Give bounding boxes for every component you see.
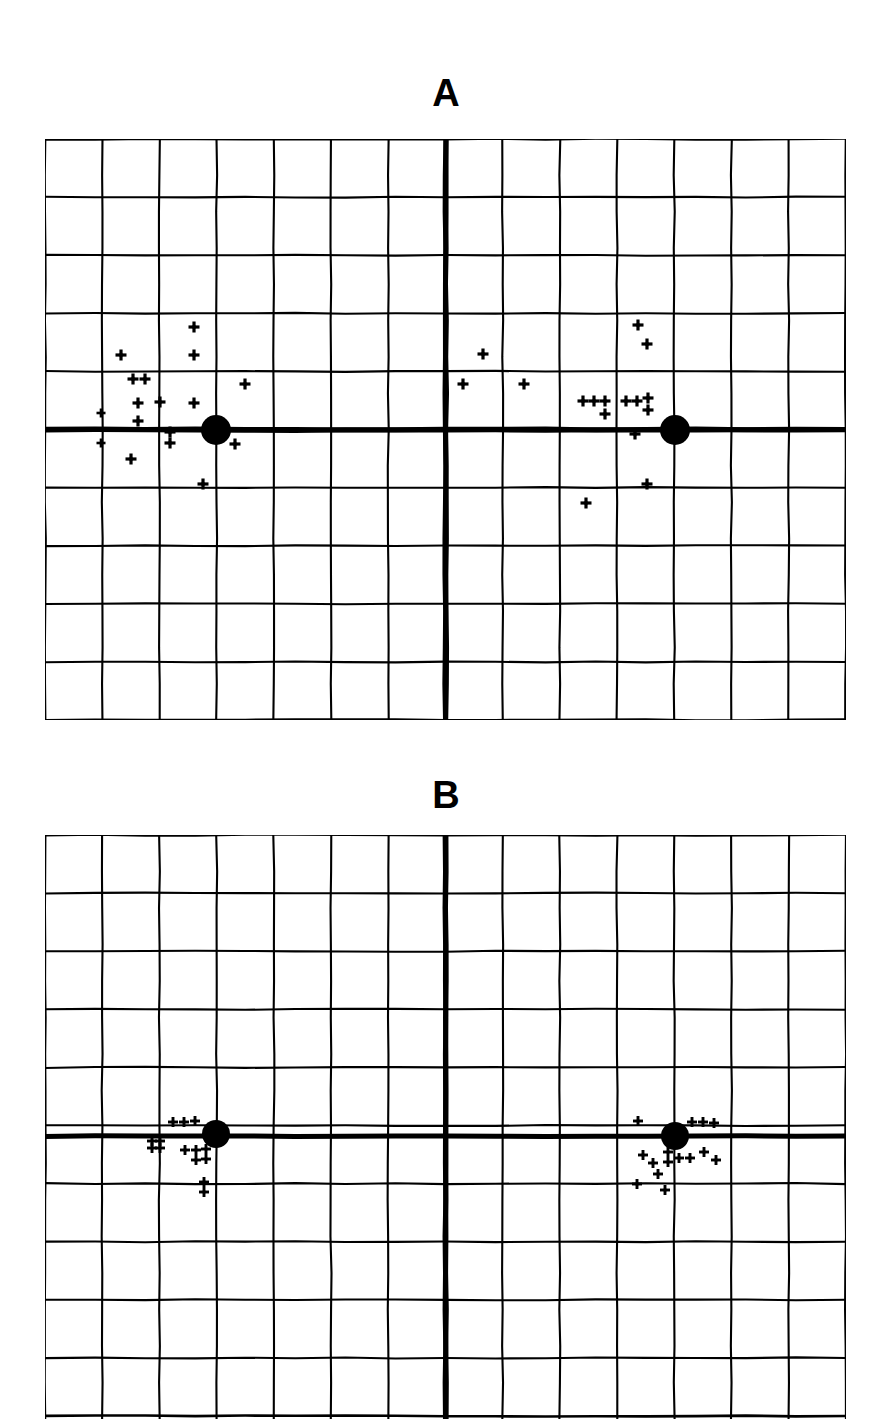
- panel-a: A: [0, 0, 892, 740]
- data-point-marker: [191, 1145, 201, 1155]
- data-point-marker: [199, 1187, 209, 1197]
- vertical-axis-line: [446, 139, 447, 720]
- data-point-marker: [600, 409, 611, 420]
- grid-line-vertical: [845, 835, 846, 1419]
- grid-line-vertical: [617, 835, 618, 1419]
- data-point-marker: [632, 1179, 642, 1189]
- data-point-marker: [201, 1154, 211, 1164]
- data-point-marker: [133, 416, 144, 427]
- grid-line-vertical: [273, 835, 274, 1419]
- data-point-marker: [648, 1158, 658, 1168]
- grid-line-vertical: [159, 835, 160, 1419]
- data-point-marker: [126, 454, 137, 465]
- grid-line-vertical: [45, 835, 46, 1419]
- data-point-marker: [97, 439, 106, 448]
- data-point-marker: [133, 398, 144, 409]
- data-point-marker: [711, 1155, 721, 1165]
- data-point-marker: [155, 1143, 165, 1153]
- data-point-marker: [458, 379, 469, 390]
- panel-b-label: B: [0, 774, 892, 816]
- data-point-marker: [674, 1153, 684, 1163]
- grid-line-vertical: [102, 835, 103, 1419]
- data-point-markers: [97, 320, 654, 509]
- right-fovea-dot: [660, 415, 690, 445]
- grid-line-vertical: [388, 835, 389, 1419]
- data-point-marker: [685, 1153, 695, 1163]
- data-point-marker: [642, 339, 653, 350]
- data-point-marker: [638, 1150, 648, 1160]
- data-point-marker: [519, 379, 530, 390]
- data-point-marker: [189, 350, 200, 361]
- data-point-marker: [633, 320, 644, 331]
- data-point-marker: [116, 350, 127, 361]
- data-point-marker: [581, 498, 592, 509]
- data-point-marker: [643, 405, 654, 416]
- panel-a-plot-area: [45, 139, 846, 720]
- grid-line-vertical: [330, 835, 331, 1419]
- right-fovea-dot: [661, 1122, 689, 1150]
- grid-line-vertical: [559, 835, 560, 1419]
- data-point-marker: [199, 1177, 209, 1187]
- left-fovea-dot: [201, 415, 231, 445]
- panel-a-grid-svg: [45, 139, 846, 720]
- panel-b-grid-svg: [45, 835, 846, 1419]
- data-point-marker: [660, 1185, 670, 1195]
- data-point-marker: [632, 396, 643, 407]
- data-point-marker: [643, 393, 654, 404]
- data-point-marker: [230, 439, 241, 450]
- data-point-marker: [165, 438, 176, 449]
- data-point-marker: [600, 396, 611, 407]
- data-point-marker: [578, 396, 589, 407]
- grid-line-vertical: [788, 835, 789, 1419]
- panel-a-label: A: [0, 72, 892, 114]
- figure-root: A B: [0, 0, 892, 1419]
- left-fovea-dot: [202, 1120, 230, 1148]
- axes: [45, 139, 846, 720]
- data-point-marker: [621, 396, 632, 407]
- grid-line-vertical: [502, 835, 503, 1419]
- grid-line-vertical: [731, 835, 732, 1419]
- data-point-marker: [189, 398, 200, 409]
- data-point-marker: [589, 396, 600, 407]
- data-point-marker: [699, 1147, 709, 1157]
- data-point-marker: [180, 1145, 190, 1155]
- data-point-marker: [478, 349, 489, 360]
- data-point-marker: [189, 322, 200, 333]
- data-point-marker: [128, 374, 139, 385]
- data-point-marker: [663, 1157, 673, 1167]
- data-point-marker: [97, 409, 106, 418]
- panel-b: B: [0, 740, 892, 1419]
- vertical-axis-line: [445, 835, 446, 1419]
- data-point-marker: [191, 1155, 201, 1165]
- data-point-marker: [240, 379, 251, 390]
- axes: [45, 835, 846, 1419]
- data-point-marker: [140, 374, 151, 385]
- data-point-marker: [653, 1169, 663, 1179]
- panel-b-plot-area: [45, 835, 846, 1419]
- data-point-marker: [155, 397, 166, 408]
